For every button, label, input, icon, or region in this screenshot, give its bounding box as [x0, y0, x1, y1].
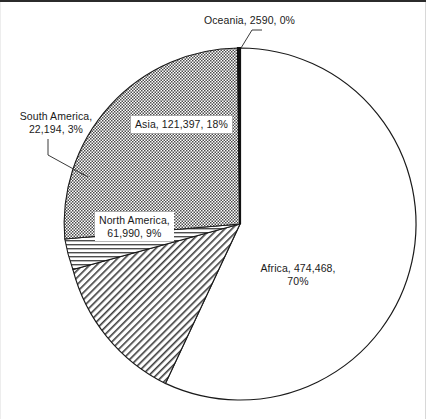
- slice-label-asia: Asia, 121,397, 18%: [131, 116, 232, 133]
- slice-label-oceania-text: Oceania, 2590, 0%: [204, 14, 295, 27]
- slice-label-north-america: North America, 61,990, 9%: [95, 212, 174, 241]
- slice-label-south-america: South America, 22,194, 3%: [8, 110, 104, 135]
- slice-label-africa-line1: Africa, 474,468,: [246, 262, 350, 275]
- slice-label-asia-text: Asia, 121,397, 18%: [135, 118, 228, 131]
- slice-label-north-america-line1: North America,: [99, 214, 170, 227]
- slice-label-south-america-line2: 22,194, 3%: [8, 123, 104, 136]
- slice-label-south-america-line1: South America,: [8, 110, 104, 123]
- slice-label-africa: Africa, 474,468, 70%: [246, 262, 350, 287]
- slice-label-north-america-line2: 61,990, 9%: [99, 227, 170, 240]
- pie-slice-asia[interactable]: [64, 48, 240, 239]
- leader-line-oceania: [241, 30, 262, 48]
- slice-label-africa-line2: 70%: [246, 275, 350, 288]
- slice-label-oceania: Oceania, 2590, 0%: [204, 14, 295, 27]
- pie-svg: [0, 0, 426, 419]
- pie-chart-figure: Oceania, 2590, 0% Asia, 121,397, 18% Sou…: [0, 0, 426, 419]
